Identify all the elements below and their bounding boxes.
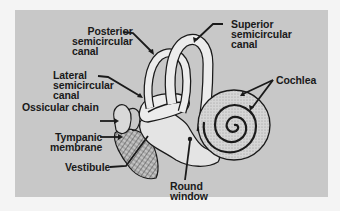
label-tympanic-membrane: Tympanic membrane <box>50 132 102 152</box>
label-lateral-semicircular-canal: Lateral semicircular canal <box>53 70 114 100</box>
round-window-dot <box>188 137 192 141</box>
label-vestibule: Vestibule <box>65 162 110 172</box>
label-cochlea: Cochlea <box>276 75 316 85</box>
label-posterior-semicircular-canal: Posterior semicircular canal <box>72 26 133 56</box>
label-ossicular-chain: Ossicular chain <box>22 102 99 112</box>
label-superior-semicircular-canal: Superior semicircular canal <box>231 19 292 49</box>
ossicular-chain-shape <box>114 105 140 134</box>
label-round-window: Round window <box>170 181 208 201</box>
cochlea-shape <box>198 90 270 160</box>
